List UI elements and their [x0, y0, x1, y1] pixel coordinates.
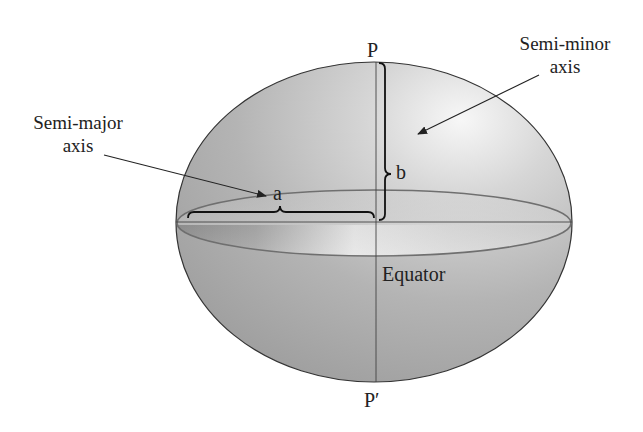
semi-major-label-line2: axis — [18, 136, 138, 155]
semi-major-label-line1: Semi-major — [18, 113, 138, 132]
equator-label: Equator — [382, 264, 445, 284]
semi-minor-label-line1: Semi-minor — [505, 34, 625, 53]
semi-minor-label-line2: axis — [505, 57, 625, 76]
b-label: b — [396, 162, 406, 182]
semi-minor-axis-label: Semi-minor axis — [505, 34, 625, 76]
a-label: a — [273, 183, 282, 203]
north-pole-label: P — [367, 40, 378, 60]
south-pole-label: P′ — [364, 390, 380, 410]
semi-major-axis-label: Semi-major axis — [18, 113, 138, 155]
ellipsoid-diagram: P P′ Semi-major axis Semi-minor axis a b… — [0, 0, 643, 432]
